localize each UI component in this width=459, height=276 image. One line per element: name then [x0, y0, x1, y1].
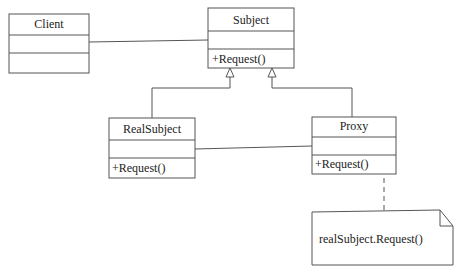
generalization-realsubject-subject	[152, 77, 230, 118]
class-name: Client	[34, 17, 64, 31]
class-subject[interactable]: Subject +Request()	[208, 8, 294, 68]
note-text: realSubject.Request()	[319, 232, 423, 246]
generalization-arrowhead-icon	[226, 68, 234, 77]
class-client[interactable]: Client	[9, 14, 89, 73]
class-operation: +Request()	[315, 157, 368, 171]
class-name: Subject	[233, 13, 270, 27]
association-client-subject	[89, 40, 208, 42]
class-operation: +Request()	[212, 52, 265, 66]
class-realsubject[interactable]: RealSubject +Request()	[109, 118, 195, 178]
generalization-proxy-subject	[272, 77, 352, 117]
class-name: Proxy	[340, 119, 369, 133]
association-proxy-realsubject	[195, 146, 312, 149]
note[interactable]: realSubject.Request()	[312, 210, 453, 265]
class-operation: +Request()	[112, 161, 165, 175]
class-name: RealSubject	[123, 122, 182, 136]
generalization-arrowhead-icon	[268, 68, 276, 77]
class-proxy[interactable]: Proxy +Request()	[312, 117, 396, 174]
uml-diagram: Client Subject +Request() RealSubject +R…	[0, 0, 459, 276]
